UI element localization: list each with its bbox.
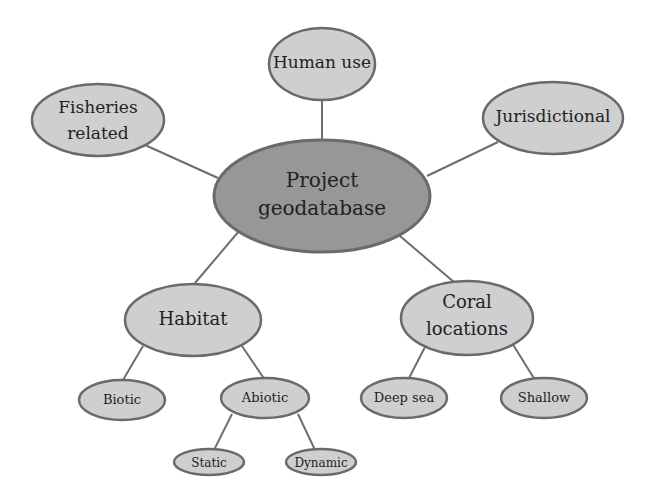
node-label: Static <box>191 456 227 470</box>
node-label-line1: Fisheries <box>58 97 137 117</box>
node-label: Human use <box>273 52 371 72</box>
node-coral-locations[interactable]: Coral locations <box>401 281 533 355</box>
edge-habitat-abiotic <box>242 346 265 380</box>
node-label-line1: Coral <box>442 291 492 312</box>
node-label: Jurisdictional <box>494 106 611 126</box>
node-abiotic[interactable]: Abiotic <box>221 378 309 418</box>
node-jurisdictional[interactable]: Jurisdictional <box>483 82 623 154</box>
node-label-line2: related <box>67 123 129 143</box>
node-biotic[interactable]: Biotic <box>79 380 165 420</box>
node-label: Biotic <box>103 392 141 407</box>
edge-root-fisheries <box>145 145 218 178</box>
edge-root-coral <box>400 236 455 283</box>
edge-root-habitat <box>195 224 245 283</box>
node-deep-sea[interactable]: Deep sea <box>361 378 447 418</box>
edge-coral-shallow <box>512 343 535 380</box>
edge-abiotic-static <box>214 414 232 450</box>
node-project-geodatabase[interactable]: Project geodatabase <box>214 140 430 252</box>
node-human-use[interactable]: Human use <box>269 28 375 100</box>
node-dynamic[interactable]: Dynamic <box>286 449 356 475</box>
edge-coral-deepsea <box>408 347 425 380</box>
edge-abiotic-dynamic <box>298 414 315 450</box>
node-label-line1: Project <box>286 168 358 192</box>
node-label-line2: geodatabase <box>258 196 386 220</box>
node-habitat[interactable]: Habitat <box>125 284 261 356</box>
node-label: Shallow <box>518 390 570 405</box>
edge-habitat-biotic <box>123 346 143 380</box>
edge-root-jurisdictional <box>427 142 498 176</box>
mind-map-diagram: Project geodatabase Human use Fisheries … <box>0 0 655 499</box>
node-label: Habitat <box>159 308 229 329</box>
node-fisheries-related[interactable]: Fisheries related <box>32 84 164 156</box>
node-shallow[interactable]: Shallow <box>501 378 587 418</box>
node-static[interactable]: Static <box>174 449 244 475</box>
node-label: Deep sea <box>374 390 435 405</box>
node-label-line2: locations <box>426 318 508 339</box>
node-label: Dynamic <box>294 456 348 470</box>
node-label: Abiotic <box>241 390 288 405</box>
